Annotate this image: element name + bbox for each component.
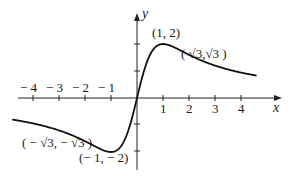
annotation-min-point: (− 1, − 2) <box>79 150 128 165</box>
annotation-inflection-negative: ( − √3, − √3 ) <box>22 135 92 150</box>
x-tick-label-1: 1 <box>160 101 167 116</box>
x-tick-label-minus-3: − 3 <box>46 80 63 95</box>
x-tick-label-4: 4 <box>238 101 245 116</box>
y-axis-label: y <box>140 6 149 21</box>
annotation-inflection-positive: ( √3,√3 ) <box>181 46 227 61</box>
annotation-max-point: (1, 2) <box>152 25 180 40</box>
x-tick-label-minus-2: − 2 <box>72 80 89 95</box>
x-tick-label-2: 2 <box>186 101 193 116</box>
x-tick-label-minus-1: − 1 <box>98 80 115 95</box>
y-axis-arrow-icon <box>134 13 140 21</box>
x-tick-label-minus-4: − 4 <box>20 80 38 95</box>
x-axis-label: x <box>272 100 280 115</box>
function-graph: − 4 − 3 − 2 − 1 1 2 3 4 x y (1, 2) ( √3,… <box>0 0 296 176</box>
x-tick-label-3: 3 <box>212 101 219 116</box>
